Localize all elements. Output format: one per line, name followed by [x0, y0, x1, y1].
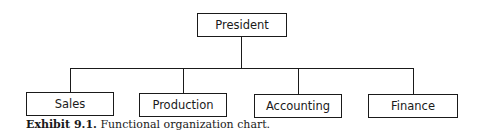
- connector-production: [183, 68, 184, 93]
- node-accounting: Accounting: [254, 94, 342, 118]
- node-accounting-label: Accounting: [266, 99, 330, 113]
- node-production: Production: [139, 93, 227, 117]
- connector-president-down: [241, 37, 242, 68]
- node-production-label: Production: [152, 98, 213, 112]
- node-sales: Sales: [26, 92, 114, 116]
- connector-horizontal-bus: [70, 68, 414, 69]
- node-sales-label: Sales: [55, 97, 86, 111]
- node-president-label: President: [215, 18, 269, 32]
- caption-text: Functional organization chart.: [100, 118, 270, 131]
- connector-sales: [70, 68, 71, 92]
- node-president: President: [197, 13, 287, 37]
- connector-finance: [413, 68, 414, 94]
- figure-caption: Exhibit 9.1. Functional organization cha…: [26, 118, 270, 131]
- caption-label: Exhibit 9.1.: [26, 118, 97, 131]
- node-finance: Finance: [368, 94, 458, 118]
- node-finance-label: Finance: [391, 99, 435, 113]
- connector-accounting: [298, 68, 299, 94]
